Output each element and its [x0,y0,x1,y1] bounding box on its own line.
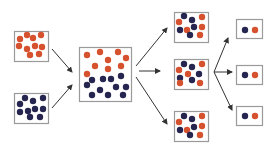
blue-particle-icon [191,124,197,130]
arrow-sample-2-to-pair-3 [214,72,232,110]
blue-particle-icon [118,73,124,79]
red-particle-icon [176,19,182,25]
arrow-red-to-mixed [52,49,72,72]
red-particle-icon [84,52,90,58]
blue-particle-icon [32,106,38,112]
blue-particle-icon [242,113,248,119]
box-source-blue [15,94,49,124]
blue-particle-icon [17,101,23,107]
blue-particle-icon [189,17,195,23]
blue-particle-icon [187,32,193,38]
red-particle-icon [177,80,183,86]
box-frame [237,66,263,85]
blue-particle-icon [22,95,28,101]
arrow-mixed-to-sample-3 [136,77,167,124]
blue-particle-icon [40,106,46,112]
blue-particle-icon [105,92,111,98]
red-particle-icon [197,132,203,138]
box-pair-1 [237,20,263,39]
arrow-blue-to-mixed [52,85,72,108]
blue-particle-icon [177,27,183,33]
blue-particle-icon [120,92,126,98]
red-particle-icon [105,57,111,63]
red-particle-icon [199,14,205,20]
red-particle-icon [199,61,205,67]
red-particle-icon [84,71,90,77]
red-particle-icon [252,27,258,33]
blue-particle-icon [100,76,106,82]
blue-particle-icon [89,92,95,98]
box-frame [237,20,263,39]
blue-particle-icon [181,61,187,67]
blue-particle-icon [189,116,195,122]
diagram-canvas [0,0,277,150]
blue-particle-icon [27,114,33,120]
blue-particle-icon [84,82,90,88]
box-sample-2 [175,60,209,90]
red-particle-icon [17,36,23,42]
red-particle-icon [36,51,42,57]
red-particle-icon [252,113,258,119]
box-frame [237,107,263,126]
arrow-mixed-to-sample-1 [136,28,167,66]
red-particle-icon [97,49,103,55]
red-particle-icon [197,80,203,86]
blue-particle-icon [40,95,46,101]
blue-particle-icon [196,71,202,77]
red-particle-icon [27,52,33,58]
box-sample-3 [175,112,209,142]
box-mixed [80,48,132,102]
red-particle-icon [32,43,38,49]
blue-particle-icon [108,76,114,82]
red-particle-icon [176,119,182,125]
red-particle-icon [92,63,98,69]
red-particle-icon [24,32,30,38]
red-particle-icon [30,35,36,41]
blue-particle-icon [123,84,129,90]
blue-particle-icon [242,72,248,78]
red-particle-icon [197,32,203,38]
blue-particle-icon [181,13,187,19]
red-particle-icon [252,72,258,78]
red-particle-icon [176,67,182,73]
boxes-layer [15,13,263,142]
red-particle-icon [118,63,124,69]
box-pair-3 [237,107,263,126]
red-particle-icon [185,71,191,77]
box-pair-2 [237,66,263,85]
red-particle-icon [115,49,121,55]
box-source-red [15,32,49,62]
red-particle-icon [199,123,205,129]
blue-particle-icon [189,64,195,70]
blue-particle-icon [187,132,193,138]
blue-particle-icon [97,87,103,93]
blue-particle-icon [89,77,95,83]
red-particle-icon [199,113,205,119]
blue-particle-icon [191,24,197,30]
box-sample-1 [175,13,209,43]
particle-mixing-diagram [0,0,277,150]
red-particle-icon [39,44,45,50]
blue-particle-icon [113,84,119,90]
red-particle-icon [123,55,129,61]
blue-particle-icon [242,27,248,33]
blue-particle-icon [17,109,23,115]
blue-particle-icon [189,77,195,83]
red-particle-icon [38,32,44,38]
red-particle-icon [105,66,111,72]
blue-particle-icon [37,114,43,120]
red-particle-icon [16,43,22,49]
arrow-sample-2-to-pair-1 [214,38,228,72]
red-particle-icon [199,24,205,30]
blue-particle-icon [177,127,183,133]
blue-particle-icon [30,98,36,104]
blue-particle-icon [25,108,31,114]
blue-particle-icon [181,113,187,119]
red-particle-icon [24,46,30,52]
